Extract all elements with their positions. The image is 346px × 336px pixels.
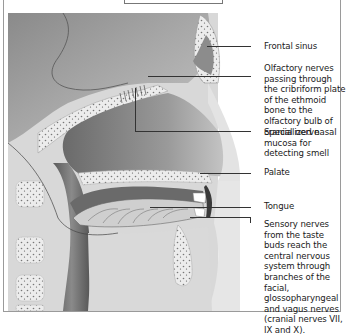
leader-line-frontal-sinus	[207, 46, 251, 47]
leader-line-palate	[200, 173, 251, 174]
label-tongue: Tongue	[264, 201, 344, 212]
leader-line-nasal-mucosa	[135, 131, 251, 132]
leader-line-tongue	[150, 207, 251, 208]
head-cross-section-illustration	[8, 13, 240, 311]
label-palate: Palate	[264, 167, 344, 178]
label-sensory-nerves: Sensory nerves from the taste buds reach…	[264, 219, 344, 336]
leader-line-sensory-nerves	[190, 217, 250, 218]
label-nasal-mucosa: Specialized nasal mucosa for detecting s…	[264, 127, 346, 159]
label-frontal-sinus: Frontal sinus	[264, 41, 344, 52]
title-box	[124, 0, 223, 4]
leader-line-sensory-nerves-vertical	[250, 217, 251, 223]
leader-line-nasal-mucosa-vertical	[135, 88, 136, 131]
leader-line-olfactory-nerves	[148, 76, 251, 77]
